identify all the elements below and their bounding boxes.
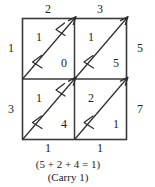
- cell-top-right-upper-digit: 1: [84, 31, 98, 43]
- cell-top-right-lower-digit: 5: [109, 57, 123, 69]
- arrowhead-bottom-left-upper: [56, 84, 65, 97]
- lattice-multiplication-diagram: 2 3 1 3 5 7 1 1 1 0 1 5 1 4 2 1 (5 + 2 +…: [0, 0, 155, 187]
- left-label-0: 1: [4, 42, 18, 54]
- caption-sum-line: (5 + 2 + 4 = 1): [0, 158, 136, 170]
- bottom-label-0: 1: [41, 142, 55, 154]
- cell-bottom-right-upper-digit: 2: [84, 92, 98, 104]
- cell-bottom-right-lower-digit: 1: [109, 118, 123, 130]
- cell-top-left-upper-digit: 1: [32, 31, 46, 43]
- top-label-1: 3: [93, 3, 107, 15]
- arrowhead-top-left-upper: [56, 23, 65, 36]
- bottom-label-1: 1: [93, 142, 107, 154]
- caption-carry-line: (Carry 1): [0, 171, 136, 183]
- right-label-1: 7: [133, 103, 147, 115]
- left-label-1: 3: [4, 103, 18, 115]
- top-label-0: 2: [41, 3, 55, 15]
- cell-top-left-lower-digit: 0: [57, 57, 71, 69]
- right-label-0: 5: [133, 42, 147, 54]
- cell-bottom-left-upper-digit: 1: [32, 92, 46, 104]
- cell-bottom-left-lower-digit: 4: [57, 118, 71, 130]
